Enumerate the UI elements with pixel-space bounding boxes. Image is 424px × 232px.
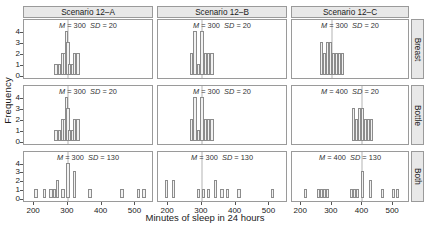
column-strip-label: Scenario 12–B: [195, 8, 249, 17]
histogram-bar: [341, 53, 344, 75]
histogram-bar: [381, 189, 384, 198]
y-tick-mark: [20, 172, 23, 173]
histogram-bar: [56, 180, 59, 198]
y-tick-label: 3: [8, 38, 20, 47]
histogram-bar: [172, 180, 175, 198]
y-tick-mark: [20, 43, 23, 44]
histogram-bar: [220, 189, 223, 198]
x-tick-label: 500: [256, 206, 280, 215]
histogram-bar: [88, 189, 91, 198]
histogram-bar: [43, 189, 46, 198]
y-tick-label: 3: [8, 167, 20, 176]
panel-annotation: M = 300 SD = 20: [158, 87, 286, 96]
y-tick-mark: [20, 32, 23, 33]
x-tick-label: 500: [380, 206, 404, 215]
panel-annotation: M = 300 SD = 20: [158, 21, 286, 30]
row-strip-both: Both: [411, 151, 424, 202]
histogram-bar: [214, 180, 217, 198]
x-tick-mark: [235, 202, 236, 205]
histogram-bar: [76, 119, 79, 141]
row-strip-bottle: Bottle: [411, 85, 424, 145]
column-strip-label: Scenario 12–A: [61, 8, 115, 17]
x-tick-label: 500: [122, 206, 146, 215]
histogram-bar: [197, 189, 200, 198]
x-tick-mark: [101, 202, 102, 205]
x-tick-label: 200: [288, 206, 312, 215]
histogram-bar: [361, 171, 364, 198]
y-tick-label: 1: [8, 126, 20, 135]
y-tick-label: 2: [8, 49, 20, 58]
histogram-bar: [207, 189, 210, 198]
histogram-bar: [61, 189, 64, 198]
x-tick-mark: [167, 202, 168, 205]
y-tick-mark: [20, 54, 23, 55]
y-tick-label: 3: [8, 104, 20, 113]
histogram-bar: [73, 171, 76, 198]
y-tick-mark: [20, 199, 23, 200]
row-strip-breast: Breast: [411, 19, 424, 79]
y-tick-label: 0: [8, 194, 20, 203]
row-strip-label: Bottle: [413, 105, 422, 126]
y-tick-label: 4: [8, 27, 20, 36]
panel-annotation: M = 400 SD = 130: [292, 153, 408, 162]
y-tick-mark: [20, 190, 23, 191]
y-tick-label: 1: [8, 60, 20, 69]
x-tick-label: 300: [55, 206, 79, 215]
histogram-bar: [271, 189, 274, 198]
panel-1-2: M = 300 SD = 20: [23, 85, 153, 145]
histogram-bar: [202, 189, 205, 198]
x-tick-label: 200: [21, 206, 45, 215]
x-tick-label: 400: [349, 206, 373, 215]
panel-2-2: M = 300 SD = 20: [157, 85, 287, 145]
x-tick-mark: [201, 202, 202, 205]
histogram-bar: [165, 180, 168, 198]
y-tick-label: 0: [8, 137, 20, 146]
y-tick-mark: [20, 181, 23, 182]
panel-annotation: M = 300 SD = 20: [292, 21, 408, 30]
column-strip-2: Scenario 12–B: [157, 6, 287, 18]
panel-2-1: M = 300 SD = 20: [157, 19, 287, 79]
y-tick-mark: [20, 164, 23, 165]
panel-3-2: M = 400 SD = 20: [291, 85, 409, 145]
x-tick-label: 400: [89, 206, 113, 215]
x-tick-label: 200: [155, 206, 179, 215]
y-tick-mark: [20, 120, 23, 121]
histogram-bar: [237, 189, 240, 198]
y-tick-mark: [20, 65, 23, 66]
row-strip-label: Both: [413, 168, 422, 185]
panel-annotation: M = 300 SD = 130: [158, 153, 286, 162]
histogram-bar: [137, 189, 140, 198]
x-tick-mark: [134, 202, 135, 205]
histogram-bar: [326, 189, 329, 198]
histogram-bar: [66, 163, 69, 198]
y-tick-mark: [20, 109, 23, 110]
y-tick-label: 4: [8, 93, 20, 102]
histogram-bar: [76, 53, 79, 75]
y-tick-label: 1: [8, 185, 20, 194]
y-tick-label: 2: [8, 115, 20, 124]
x-tick-label: 300: [319, 206, 343, 215]
x-tick-mark: [67, 202, 68, 205]
panel-1-3: M = 300 SD = 130: [23, 151, 153, 202]
histogram-bar: [392, 189, 395, 198]
histogram-bar: [210, 53, 213, 75]
panel-3-3: M = 400 SD = 130: [291, 151, 409, 202]
panel-annotation: M = 300 SD = 20: [24, 21, 152, 30]
x-tick-mark: [392, 202, 393, 205]
y-tick-mark: [20, 131, 23, 132]
x-tick-mark: [33, 202, 34, 205]
panel-2-3: M = 300 SD = 130: [157, 151, 287, 202]
x-tick-label: 300: [189, 206, 213, 215]
column-strip-label: Scenario 12–C: [323, 8, 377, 17]
y-tick-label: 0: [8, 71, 20, 80]
histogram-bar: [142, 189, 145, 198]
column-strip-3: Scenario 12–C: [291, 6, 409, 18]
y-tick-label: 4: [8, 159, 20, 168]
y-tick-mark: [20, 76, 23, 77]
y-tick-mark: [20, 98, 23, 99]
histogram-bar: [120, 189, 123, 198]
histogram-bar: [34, 189, 37, 198]
x-tick-mark: [300, 202, 301, 205]
x-tick-mark: [268, 202, 269, 205]
